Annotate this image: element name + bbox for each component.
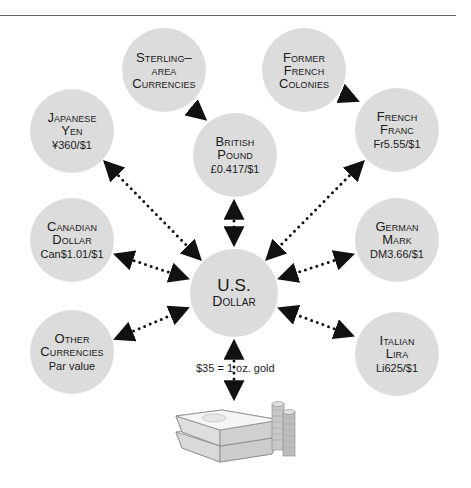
node-label-line1: Sterling– — [136, 51, 192, 64]
link-mark-usd — [281, 255, 351, 278]
node-label-line2: Currencies — [40, 345, 103, 358]
node-label-line1: Canadian — [47, 220, 97, 233]
node-french-franc: French Franc Fr5.55/$1 — [355, 88, 439, 172]
node-former-french-colonies: Former French Colonies — [262, 28, 346, 112]
node-label-line2: Franc — [380, 123, 414, 136]
gold-bars-and-coins-icon — [172, 396, 297, 468]
node-label-line2: Pound — [217, 148, 253, 161]
node-label-line2: French — [284, 64, 325, 77]
exchange-rate: Li625/$1 — [376, 361, 418, 375]
exchange-rate: ¥360/$1 — [52, 138, 92, 152]
node-label-line2: Dollar — [212, 294, 256, 309]
node-label-line1: Japanese — [47, 111, 96, 124]
node-label-line1: German — [375, 220, 418, 233]
node-british-pound: British Pound £0.417/$1 — [193, 113, 277, 197]
node-german-mark: German Mark DM3.66/$1 — [355, 198, 439, 282]
node-label-line3: Colonies — [279, 77, 329, 90]
node-label-line2: Lira — [386, 347, 409, 360]
node-japanese-yen: Japanese Yen ¥360/$1 — [30, 89, 114, 173]
node-label-line2: Yen — [61, 124, 82, 137]
link-lira-usd — [281, 309, 351, 335]
exchange-rate: Par value — [49, 359, 95, 373]
gold-link-label: $35 = 1 oz. gold — [196, 362, 275, 374]
exchange-rate: DM3.66/$1 — [370, 247, 424, 261]
node-canadian-dollar: Canadian Dollar Can$1.01/$1 — [30, 198, 114, 282]
link-sterling-pound — [192, 108, 204, 118]
node-label-line1: Other — [54, 332, 89, 345]
node-label-line1: French — [377, 110, 418, 123]
exchange-rate: Fr5.55/$1 — [373, 137, 420, 151]
node-sterling-area: Sterling– area Currencies — [122, 28, 206, 112]
node-us-dollar: U.S. Dollar — [190, 249, 278, 337]
node-label-line1: Italian — [379, 334, 414, 347]
link-french-colonies-franc — [342, 94, 356, 100]
node-label-line1: British — [216, 135, 255, 148]
node-label-line1: U.S. — [217, 277, 250, 294]
link-other-usd — [117, 309, 186, 338]
node-label-line3: Currencies — [132, 77, 195, 90]
link-cad-usd — [117, 255, 186, 278]
node-label-line1: Former — [283, 51, 325, 64]
node-label-line2: Mark — [382, 233, 412, 246]
exchange-rate: £0.417/$1 — [211, 162, 260, 176]
node-italian-lira: Italian Lira Li625/$1 — [355, 312, 439, 396]
node-other-currencies: Other Currencies Par value — [30, 310, 114, 394]
node-label-line2: Dollar — [52, 233, 92, 246]
link-yen-usd — [106, 163, 199, 258]
link-franc-usd — [268, 163, 362, 258]
node-label-line2: area — [152, 64, 177, 77]
exchange-rate: Can$1.01/$1 — [41, 247, 104, 261]
